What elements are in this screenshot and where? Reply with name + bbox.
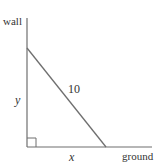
ground-label: ground [122,150,154,162]
base-label-x: x [68,150,75,164]
wall-label: wall [3,15,22,27]
ladder-line [27,48,106,147]
ladder-length-label: 10 [68,82,80,96]
height-label-y: y [14,93,21,107]
ladder-wall-diagram: wall y 10 x ground [0,0,165,165]
right-angle-marker [27,138,36,147]
